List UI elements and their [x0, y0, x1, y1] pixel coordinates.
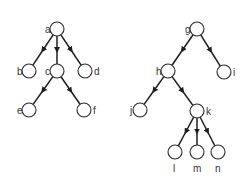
node-label-g: g — [185, 24, 191, 35]
nodes-layer: abcdefghijklmn — [17, 22, 235, 174]
node-e — [22, 103, 36, 117]
node-label-f: f — [93, 105, 96, 116]
node-label-i: i — [233, 67, 235, 78]
node-label-e: e — [17, 105, 23, 116]
node-label-k: k — [206, 106, 212, 117]
node-d — [78, 64, 92, 78]
node-label-b: b — [17, 66, 23, 77]
edge-a-d — [71, 50, 81, 65]
node-c — [50, 64, 64, 78]
edge-k-n — [208, 132, 215, 146]
edge-g-i — [211, 51, 221, 67]
edge-c-e-arrow-icon — [43, 77, 53, 91]
node-label-m: m — [193, 163, 201, 174]
edge-h-k-arrow-icon — [172, 77, 182, 91]
edge-c-f-arrow-icon — [61, 77, 71, 91]
node-m — [190, 145, 204, 159]
tree-diagrams: abcdefghijklmn — [0, 0, 251, 180]
edge-k-l-arrow-icon — [186, 117, 194, 131]
node-j — [133, 103, 147, 117]
edge-h-j — [144, 91, 154, 105]
edge-c-f — [71, 91, 81, 105]
node-k — [190, 104, 204, 118]
edge-k-n-arrow-icon — [200, 117, 207, 131]
node-label-h: h — [156, 66, 162, 77]
node-label-d: d — [94, 66, 100, 77]
node-label-c: c — [45, 66, 50, 77]
node-n — [211, 145, 225, 159]
edges-layer — [33, 35, 220, 146]
node-g — [190, 22, 204, 36]
edge-k-l — [178, 132, 186, 146]
node-i — [217, 65, 231, 79]
edge-a-b-arrow-icon — [43, 35, 53, 50]
edge-g-i-arrow-icon — [201, 35, 211, 51]
edge-a-d-arrow-icon — [61, 35, 71, 50]
edge-h-k — [183, 91, 193, 105]
edge-c-e — [33, 91, 43, 105]
node-a — [50, 22, 64, 36]
node-label-n: n — [215, 163, 221, 174]
node-h — [161, 64, 175, 78]
node-label-j: j — [129, 105, 132, 116]
node-label-l: l — [173, 163, 175, 174]
node-f — [77, 103, 91, 117]
node-b — [22, 64, 36, 78]
node-l — [168, 145, 182, 159]
node-label-a: a — [45, 24, 51, 35]
edge-g-h-arrow-icon — [183, 35, 194, 50]
edge-a-b — [33, 50, 43, 65]
edge-h-j-arrow-icon — [154, 77, 164, 91]
edge-g-h — [172, 50, 183, 65]
